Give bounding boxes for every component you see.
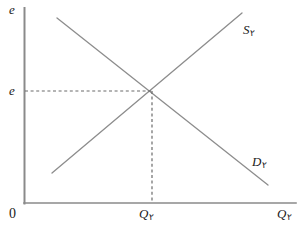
supply-curve-label: S۲ (243, 23, 255, 38)
equilibrium-quantity-base: Q (139, 206, 148, 221)
quantity-axis-base: Q (277, 206, 286, 221)
equilibrium-price-label: e (9, 84, 15, 97)
equilibrium-quantity-label: Q۲ (139, 207, 154, 222)
demand-label-base: D (252, 154, 261, 169)
origin-label: 0 (9, 207, 16, 221)
y-axis-label-price: e (9, 3, 15, 16)
equilibrium-quantity-subscript: ۲ (148, 212, 153, 222)
quantity-axis-subscript: ۲ (286, 212, 291, 222)
supply-label-subscript: ۲ (250, 28, 255, 38)
supply-label-base: S (243, 22, 250, 37)
demand-curve-label: D۲ (252, 155, 267, 170)
demand-curve (57, 18, 268, 185)
demand-label-subscript: ۲ (261, 160, 266, 170)
supply-demand-chart: e e 0 S۲ D۲ Q۲ Q۲ (0, 0, 301, 231)
x-axis-label-quantity: Q۲ (277, 207, 292, 222)
chart-canvas (0, 0, 301, 231)
